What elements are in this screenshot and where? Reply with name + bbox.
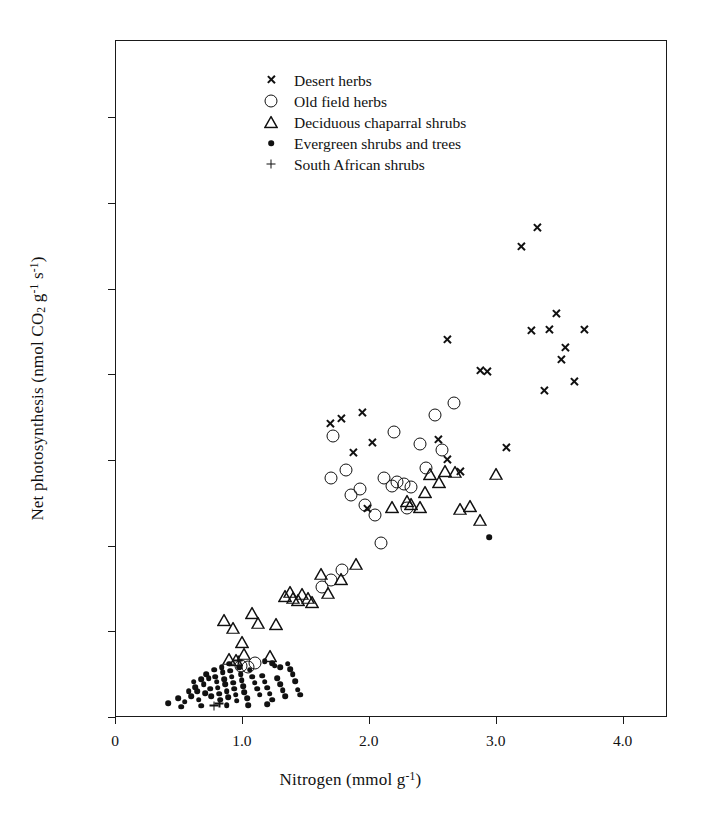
legend-marker — [258, 154, 284, 175]
y-tick — [108, 374, 115, 375]
x-axis-title-tail: ) — [416, 770, 422, 789]
x-tick — [115, 717, 116, 724]
circle-icon — [265, 95, 278, 108]
y-tick — [108, 203, 115, 204]
y-axis-title-exponent-2: -1 — [28, 262, 41, 272]
legend-marker — [258, 112, 284, 133]
x-axis-title-text: Nitrogen (mmol g — [280, 770, 406, 789]
y-axis-title-exponent-1: -1 — [28, 283, 41, 293]
dot-icon — [268, 140, 274, 146]
plus-icon — [234, 656, 243, 665]
legend-marker — [258, 91, 284, 112]
y-axis-title: Net photosynthesis (nmol CO2 g-1 s-1) — [28, 88, 49, 688]
legend-label: Deciduous chaparral shrubs — [294, 113, 466, 132]
legend-marker — [258, 133, 284, 154]
legend: Desert herbsOld field herbsDeciduous cha… — [258, 70, 558, 175]
plus-icon — [267, 160, 276, 169]
legend-item: Old field herbs — [258, 91, 558, 112]
x-tick — [623, 717, 624, 724]
legend-item: Deciduous chaparral shrubs — [258, 112, 558, 133]
legend-item: Evergreen shrubs and trees — [258, 133, 558, 154]
legend-item: Desert herbs — [258, 70, 558, 91]
x-tick-label: 1.0 — [212, 733, 272, 749]
scatter-figure: 0100200300400500600700 01.02.03.04.0 Des… — [0, 0, 701, 817]
cross-icon — [267, 76, 276, 85]
x-tick — [369, 717, 370, 724]
x-tick-label: 2.0 — [339, 733, 399, 749]
x-axis-title-exponent: -1 — [406, 770, 416, 783]
y-axis-title-mid: g — [28, 293, 47, 306]
y-axis-title-tail: ) — [28, 256, 47, 262]
y-tick — [108, 631, 115, 632]
x-axis-title: Nitrogen (mmol g-1) — [0, 770, 701, 790]
x-tick-label: 3.0 — [466, 733, 526, 749]
legend-item: South African shrubs — [258, 154, 558, 175]
x-tick-label: 4.0 — [593, 733, 653, 749]
y-tick — [108, 460, 115, 461]
legend-label: Desert herbs — [294, 71, 372, 90]
y-axis-title-mid-2: s — [28, 272, 47, 283]
legend-label: Evergreen shrubs and trees — [294, 134, 461, 153]
legend-marker — [258, 70, 284, 91]
x-tick — [242, 717, 243, 724]
y-tick — [108, 546, 115, 547]
y-axis-title-subscript: 2 — [35, 307, 48, 313]
y-tick — [108, 117, 115, 118]
y-tick — [108, 289, 115, 290]
x-tick — [496, 717, 497, 724]
legend-label: South African shrubs — [294, 155, 425, 174]
y-tick — [108, 717, 115, 718]
triangle-icon — [264, 116, 278, 129]
plus-icon — [209, 701, 218, 710]
legend-label: Old field herbs — [294, 92, 387, 111]
y-axis-title-text: Net photosynthesis (nmol CO — [28, 313, 47, 521]
x-tick-label: 0 — [85, 733, 145, 749]
